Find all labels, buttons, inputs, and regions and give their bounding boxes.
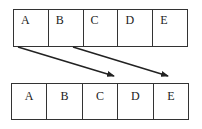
arrow-a-to-c [18,47,114,76]
bottom-cell-d: D [118,84,153,119]
bottom-cell-e: E [154,84,188,119]
bottom-cell-b: B [47,84,82,119]
bottom-cell-c: C [83,84,118,119]
bottom-cell-a: A [12,84,47,119]
arrow-b-to-e [73,47,168,76]
bottom-array: A B C D E [11,83,189,120]
